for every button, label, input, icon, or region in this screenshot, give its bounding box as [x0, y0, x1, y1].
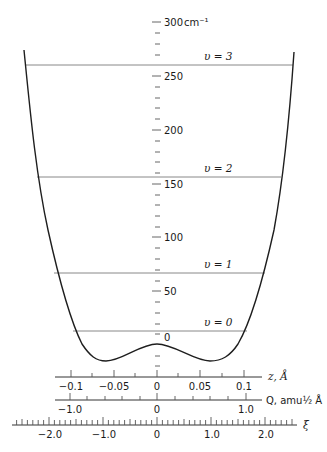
xi-tick-2.0: 2.0: [258, 429, 274, 440]
q-tick-0: 0: [154, 404, 160, 415]
q-axis: −1.0 0 1.0 Q, amu½ Å: [55, 393, 322, 415]
level-label-v0: υ = 0: [204, 316, 233, 328]
xi-ticks: [17, 417, 292, 425]
xi-axis: −2.0 −1.0 0 1.0 2.0 ξ: [12, 417, 310, 440]
xi-tick-neg1.0: −1.0: [92, 429, 116, 440]
xi-axis-label: ξ: [303, 419, 310, 431]
energy-unit: cm⁻¹: [184, 17, 209, 28]
energy-major-ticks: [152, 22, 161, 291]
xi-tick-1.0: 1.0: [204, 429, 220, 440]
z-tick-neg0.05: −0.05: [99, 381, 130, 392]
level-label-v3: υ = 3: [204, 50, 233, 62]
energy-tick-300: 300: [164, 17, 183, 28]
level-label-v2: υ = 2: [204, 162, 233, 174]
z-tick-0.05: 0.05: [189, 381, 211, 392]
q-axis-label: Q, amu½ Å: [266, 394, 322, 406]
xi-tick-neg2.0: −2.0: [38, 429, 62, 440]
potential-diagram: υ = 3 υ = 2 υ = 1 υ = 0: [0, 0, 327, 452]
potential-curve: [24, 50, 294, 361]
energy-minor-ticks: [155, 33, 160, 366]
energy-tick-0: 0: [164, 332, 170, 343]
energy-tick-100: 100: [164, 232, 183, 243]
energy-axis: 300 cm⁻¹ 250 200 150 100 50 0: [152, 17, 209, 366]
z-axis-label: z, Å: [267, 369, 288, 382]
q-tick-1.0: 1.0: [238, 404, 254, 415]
level-label-v1: υ = 1: [204, 258, 233, 270]
z-tick-neg0.1: −0.1: [59, 381, 83, 392]
energy-tick-250: 250: [164, 71, 183, 82]
energy-tick-200: 200: [164, 125, 183, 136]
z-tick-0: 0: [154, 381, 160, 392]
energy-tick-50: 50: [164, 286, 177, 297]
level-labels: υ = 3 υ = 2 υ = 1 υ = 0: [204, 50, 233, 328]
z-tick-0.1: 0.1: [236, 381, 252, 392]
z-axis: −0.1 −0.05 0 0.05 0.1 z, Å: [55, 369, 288, 392]
energy-tick-150: 150: [164, 179, 183, 190]
q-tick-neg1.0: −1.0: [58, 404, 82, 415]
xi-tick-0: 0: [154, 429, 160, 440]
